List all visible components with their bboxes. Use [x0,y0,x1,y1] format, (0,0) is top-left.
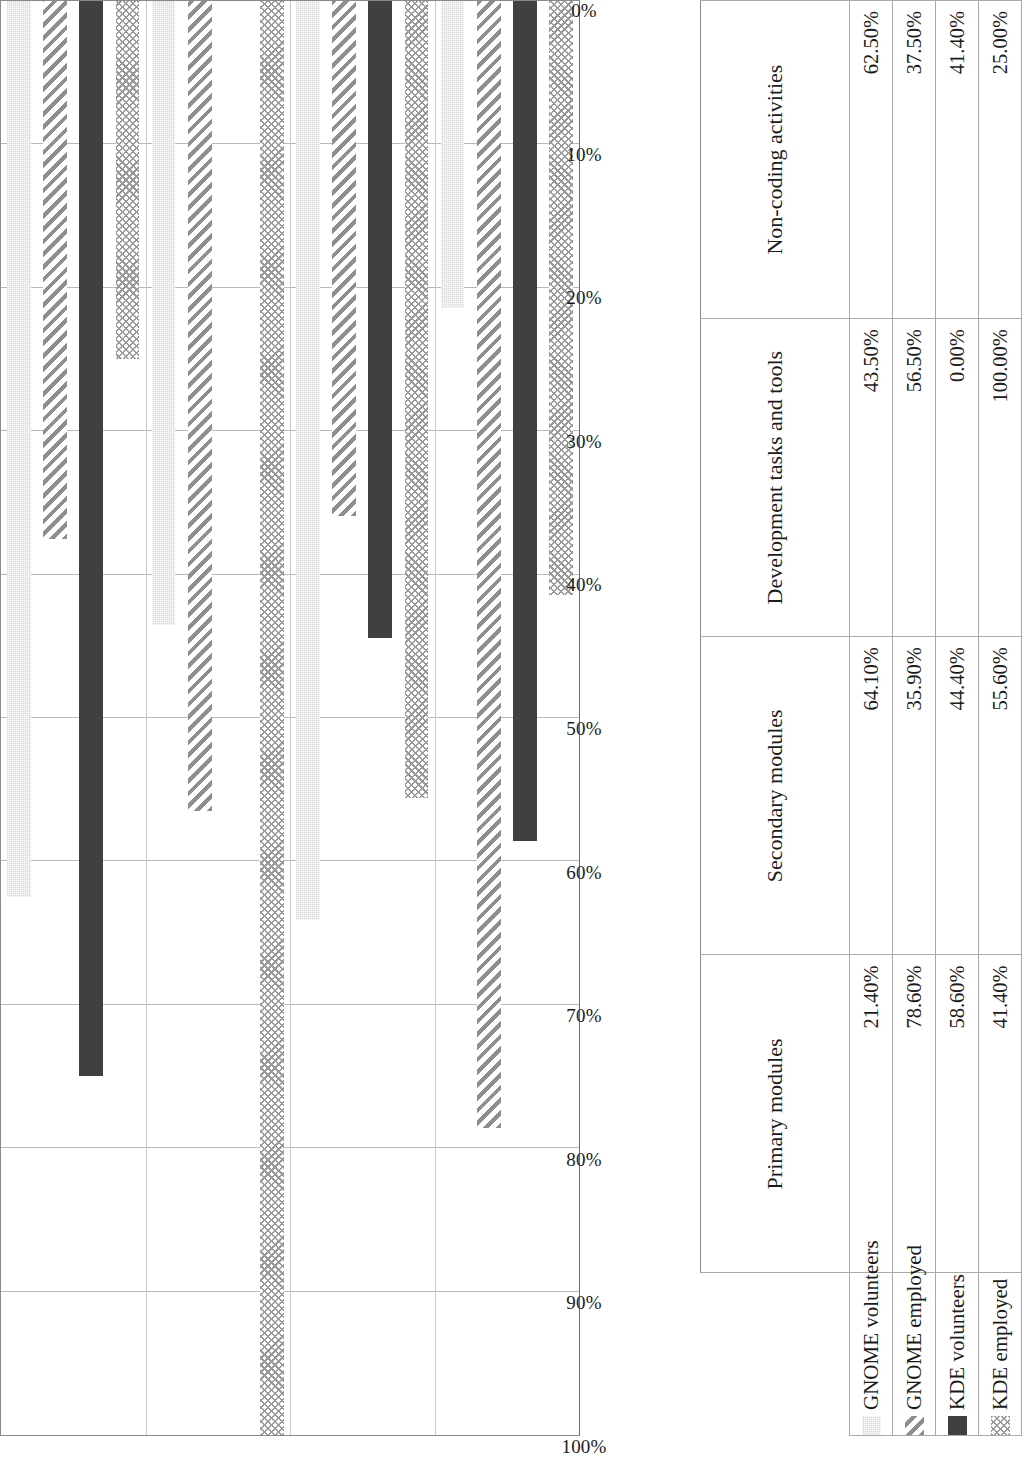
bar [441,1,465,308]
legend-entry: KDE employed [979,1273,1022,1436]
bar [7,1,31,897]
tick-label: 70% [566,1005,601,1027]
category-band [290,1,435,1435]
bar-slot [326,1,362,1435]
table-row: KDE employed41.40%55.60%100.00%25.00% [979,1,1022,1436]
legend-label: GNOME volunteers [859,1240,884,1410]
tick-label: 50% [566,718,601,740]
tick-label: 40% [566,574,601,596]
category-separator [290,1,291,1435]
table-cell-value: 21.40% [850,955,893,1273]
bar [79,1,103,1077]
tick-label-row: 100%90%80%70%60%50%40%30%20%10%0% [580,0,700,1482]
legend-swatch-icon [948,1416,967,1435]
bar [332,1,356,516]
legend-entry: KDE volunteers [936,1273,979,1436]
category-band [435,1,580,1435]
table-column-header: Primary modules [701,955,850,1273]
legend-label: KDE volunteers [945,1274,970,1410]
table-cell-value: 78.60% [893,955,936,1273]
bar [368,1,392,638]
bar-slot [73,1,109,1435]
table-cell-value: 58.60% [936,955,979,1273]
table-corner-cell [701,1273,850,1436]
table-cell-value: 41.40% [979,955,1022,1273]
legend-label: GNOME employed [902,1245,927,1410]
table-header-row: Primary modulesSecondary modulesDevelopm… [701,1,850,1436]
legend-entry: GNOME volunteers [850,1273,893,1436]
table-cell-value: 35.90% [893,637,936,955]
table-column-header: Non-coding activities [701,1,850,319]
tick-label: 30% [566,431,601,453]
category-separator [146,1,147,1435]
bar [260,1,284,1435]
category-separator [435,1,436,1435]
table-cell-value: 41.40% [936,1,979,319]
bar [405,1,429,798]
category-band [146,1,291,1435]
table-cell-value: 62.50% [850,1,893,319]
bar-slot [146,1,182,1435]
data-table: Primary modulesSecondary modulesDevelopm… [700,0,1022,1436]
bar [477,1,501,1128]
table-cell-value: 25.00% [979,1,1022,319]
bar [513,1,537,841]
legend-label: KDE employed [988,1279,1013,1410]
tick-label: 20% [566,287,601,309]
bar [152,1,176,625]
data-table-row: Primary modulesSecondary modulesDevelopm… [700,0,850,1482]
plot-left-gutter [0,1436,580,1482]
plot-area [0,0,580,1436]
bar-slot [182,1,218,1435]
plot-row [0,0,580,1482]
table-cell-value: 43.50% [850,319,893,637]
bar-slot [37,1,73,1435]
bar-slot [398,1,434,1435]
bar [43,1,67,539]
category-band [1,1,146,1435]
data-table-container: Primary modulesSecondary modulesDevelopm… [700,0,850,1436]
tick-label: 60% [566,862,601,884]
table-cell-value: 0.00% [936,319,979,637]
value-axis-tick-labels: 100%90%80%70%60%50%40%30%20%10%0% [580,0,700,1436]
bar-slot [254,1,290,1435]
table-column-header: Secondary modules [701,637,850,955]
tick-label: 90% [566,1292,601,1314]
legend-swatch-icon [905,1416,924,1435]
table-row: GNOME volunteers21.40%64.10%43.50%62.50% [850,1,893,1436]
table-cell-value: 56.50% [893,319,936,637]
table-row: GNOME employed78.60%35.90%56.50%37.50% [893,1,936,1436]
legend-entry: GNOME employed [893,1273,936,1436]
bar-slot [218,1,254,1435]
tick-label: 0% [571,0,597,22]
table-cell-value: 100.00% [979,319,1022,637]
table-cell-value: 44.40% [936,637,979,955]
legend-swatch-icon [991,1416,1010,1435]
tick-label: 100% [561,1436,606,1458]
table-cell-value: 64.10% [850,637,893,955]
bar-slot [290,1,326,1435]
bar-slot [1,1,37,1435]
tick-label: 10% [566,144,601,166]
bar [296,1,320,920]
legend-swatch-icon [862,1416,881,1435]
table-cell-value: 55.60% [979,637,1022,955]
table-cell-value: 37.50% [893,1,936,319]
bar-slot [109,1,145,1435]
table-row: KDE volunteers58.60%44.40%0.00%41.40% [936,1,979,1436]
bar-slot [507,1,543,1435]
bar-slot [471,1,507,1435]
bar [116,1,140,360]
bar [188,1,212,811]
table-column-header: Development tasks and tools [701,319,850,637]
table-left-gutter [700,1436,850,1482]
tick-label: 80% [566,1149,601,1171]
bar-slot [362,1,398,1435]
bar-slot [435,1,471,1435]
